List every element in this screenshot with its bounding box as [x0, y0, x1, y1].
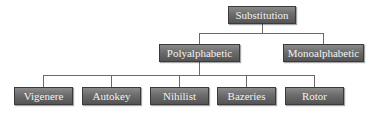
node-monoalphabetic: Monoalphabetic — [283, 44, 364, 62]
node-polyalphabetic: Polyalphabetic — [159, 44, 240, 62]
connector-nihilist-vertical — [179, 75, 180, 87]
node-rotor: Rotor — [285, 87, 344, 105]
connector-rotor-vertical — [314, 75, 315, 87]
connector-vigenere-vertical — [43, 75, 44, 87]
node-autokey: Autokey — [82, 87, 141, 105]
node-vigenere: Vigenere — [14, 87, 73, 105]
connector-monoalphabetic-vertical — [323, 33, 324, 44]
node-bazeries: Bazeries — [217, 87, 276, 105]
connector-polyalphabetic-vertical — [199, 33, 200, 44]
connector-bazeries-vertical — [246, 75, 247, 87]
connector-polyalphabetic-down — [199, 61, 200, 75]
node-nihilist: Nihilist — [150, 87, 209, 105]
connector-autokey-vertical — [111, 75, 112, 87]
node-substitution: Substitution — [228, 6, 296, 24]
connector-level1-horizontal — [199, 33, 324, 34]
